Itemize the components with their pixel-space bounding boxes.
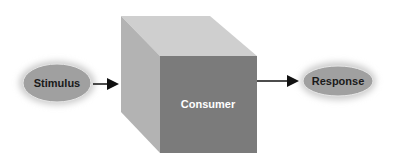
consumer-cube: Consumer (121, 16, 257, 153)
stimulus-node: Stimulus (19, 61, 95, 105)
response-label: Response (312, 75, 365, 87)
stimulus-label: Stimulus (34, 77, 80, 89)
response-node: Response (300, 62, 376, 100)
consumer-black-box-diagram: Consumer Stimulus Response (0, 0, 404, 163)
consumer-label: Consumer (181, 98, 236, 110)
